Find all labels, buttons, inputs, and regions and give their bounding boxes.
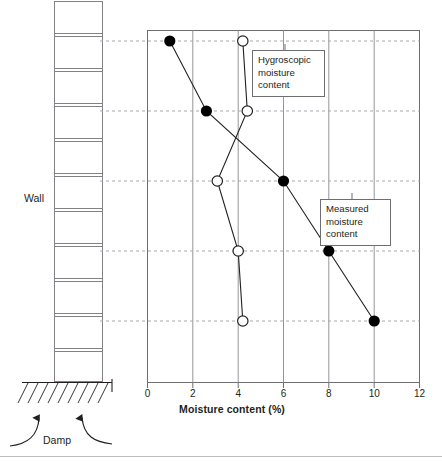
callout-line: moisture bbox=[326, 216, 385, 229]
x-tick-label-10: 10 bbox=[366, 388, 382, 400]
data-point-hygroscopic bbox=[233, 246, 243, 256]
x-tick-label-0: 0 bbox=[140, 388, 156, 400]
data-point-measured bbox=[164, 35, 175, 46]
data-point-hygroscopic bbox=[238, 36, 248, 46]
data-point-measured bbox=[369, 315, 380, 326]
x-axis-title: Moisture content (%) bbox=[179, 403, 285, 415]
callout-line: content bbox=[258, 79, 319, 92]
figure-root: Wall Damp bbox=[0, 0, 442, 464]
callout-hygroscopic-moisture-content: Hygroscopic moisture content bbox=[252, 50, 325, 97]
callout-line: Measured bbox=[326, 203, 385, 216]
data-point-measured bbox=[201, 105, 212, 116]
callout-line: moisture bbox=[258, 67, 319, 80]
data-point-hygroscopic bbox=[238, 316, 248, 326]
x-tick-label-6: 6 bbox=[276, 388, 292, 400]
data-point-hygroscopic bbox=[242, 106, 252, 116]
callout-measured-moisture-content: Measured moisture content bbox=[320, 199, 391, 246]
data-point-measured bbox=[278, 175, 289, 186]
x-tick-label-8: 8 bbox=[321, 388, 337, 400]
x-tick-label-2: 2 bbox=[185, 388, 201, 400]
callout-line: content bbox=[326, 228, 385, 241]
data-point-measured bbox=[323, 245, 334, 256]
callout-line: Hygroscopic bbox=[258, 54, 319, 67]
data-point-hygroscopic bbox=[212, 176, 222, 186]
x-tick-label-4: 4 bbox=[230, 388, 246, 400]
x-tick-label-12: 12 bbox=[412, 388, 428, 400]
